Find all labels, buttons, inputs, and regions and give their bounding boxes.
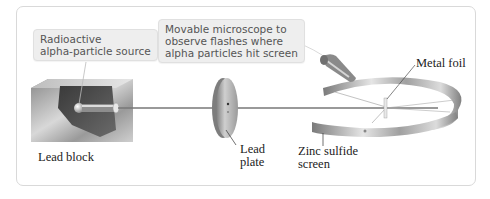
- lead-block: [31, 79, 133, 142]
- label-zinc-line-2: screen: [298, 158, 358, 171]
- callout-microscope-line-1: Movable microscope to: [165, 23, 298, 35]
- lead-plate: [212, 78, 238, 138]
- label-lead-block: Lead block: [38, 151, 94, 164]
- label-lead-plate-line-2: plate: [240, 156, 265, 169]
- callout-source-line-2: alpha-particle source: [40, 45, 151, 57]
- callout-microscope-line-2: observe flashes where: [165, 35, 298, 47]
- callout-microscope-line-3: alpha particles hit screen: [165, 47, 298, 59]
- microscope: [320, 54, 356, 82]
- callout-source-line-1: Radioactive: [40, 33, 151, 45]
- label-metal-foil: Metal foil: [416, 57, 466, 70]
- metal-foil: [384, 98, 387, 118]
- callout-alpha-source: Radioactive alpha-particle source: [33, 29, 158, 61]
- label-lead-plate: Lead plate: [240, 143, 265, 169]
- callout-microscope: Movable microscope to observe flashes wh…: [158, 19, 305, 63]
- label-zinc-sulfide-screen: Zinc sulfide screen: [298, 145, 358, 171]
